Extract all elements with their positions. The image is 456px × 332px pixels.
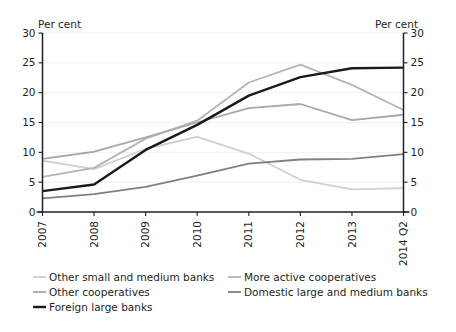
x-axis-tick-2012: 2012 <box>294 221 306 248</box>
legend-label: More active cooperatives <box>244 271 376 283</box>
legend-item-other-small-and-medium-banks: Other small and medium banks <box>33 271 214 283</box>
x-axis-tick-2009: 2009 <box>139 221 151 248</box>
y-axis-right-tick-25: 25 <box>411 56 424 68</box>
series-line-domestic-large-and-medium-banks <box>43 154 404 198</box>
y-axis-right-tick-5: 5 <box>411 176 418 188</box>
right-axis-unit-label: Per cent <box>375 18 418 30</box>
line-chart: 051015202530 051015202530 20072008200920… <box>0 0 456 332</box>
legend-label: Foreign large banks <box>49 301 152 313</box>
y-axis-right-labels: 051015202530 <box>411 27 424 218</box>
legend-item-more-active-cooperatives: More active cooperatives <box>228 271 376 283</box>
series-line-foreign-large-banks <box>43 68 404 192</box>
series-group <box>43 65 404 199</box>
legend-item-other-cooperatives: Other cooperatives <box>33 286 150 298</box>
x-axis-tick-2013: 2013 <box>346 221 358 248</box>
y-axis-right-tick-10: 10 <box>411 146 424 158</box>
x-axis-tick-2014-q2: 2014 Q2 <box>397 221 409 266</box>
y-axis-left-tick-15: 15 <box>22 116 35 128</box>
series-line-more-active-cooperatives <box>43 65 404 177</box>
y-axis-right-tick-20: 20 <box>411 86 424 98</box>
y-axis-right-tick-15: 15 <box>411 116 424 128</box>
y-axis-left-tick-20: 20 <box>22 86 35 98</box>
x-axis-tick-2007: 2007 <box>36 221 48 248</box>
y-axis-right-tick-0: 0 <box>411 206 418 218</box>
legend-item-domestic-large-and-medium-banks: Domestic large and medium banks <box>228 286 428 298</box>
series-line-other-cooperatives <box>43 104 404 159</box>
legend-label: Other cooperatives <box>49 286 150 298</box>
legend-item-foreign-large-banks: Foreign large banks <box>33 301 152 313</box>
x-axis-labels: 20072008200920102011201220132014 Q2 <box>36 221 409 266</box>
left-axis-unit-label: Per cent <box>38 18 81 30</box>
x-axis-tick-2010: 2010 <box>191 221 203 248</box>
y-axis-left-labels: 051015202530 <box>22 27 35 218</box>
x-axis-tick-2008: 2008 <box>88 221 100 248</box>
y-axis-left-tick-10: 10 <box>22 146 35 158</box>
legend-label: Other small and medium banks <box>49 271 214 283</box>
y-axis-left-tick-0: 0 <box>29 206 36 218</box>
chart-container: 051015202530 051015202530 20072008200920… <box>0 0 456 332</box>
y-axis-left-tick-30: 30 <box>22 27 35 39</box>
x-axis-tick-2011: 2011 <box>242 221 254 248</box>
y-axis-left-tick-25: 25 <box>22 56 35 68</box>
legend-label: Domestic large and medium banks <box>244 286 428 298</box>
y-axis-left-tick-5: 5 <box>29 176 36 188</box>
legend: Other small and medium banksMore active … <box>33 271 428 313</box>
